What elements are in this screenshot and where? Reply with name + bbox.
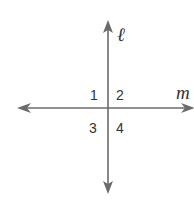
angle-3-label: 3 [89,120,97,136]
label-m: m [176,82,190,103]
line-l [103,20,113,194]
angle-2-label: 2 [116,87,124,103]
line-m [17,103,194,113]
label-l: ℓ [117,24,125,45]
perpendicular-lines-diagram: ℓ m 1 2 3 4 [0,0,194,201]
angle-1-label: 1 [90,87,98,103]
angle-4-label: 4 [116,120,124,136]
